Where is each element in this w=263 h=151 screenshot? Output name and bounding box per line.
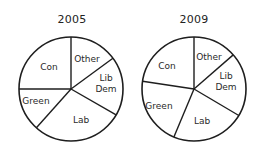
slice-label-other: Other [74,54,100,64]
slice-label-con: Con [158,61,176,71]
pie-2005: OtherLibDemLabGreenCon [19,37,123,141]
slice-label-green: Green [145,101,172,111]
pie-2009: OtherLibDemLabGreenCon [142,37,246,141]
slice-label-con: Con [40,62,58,72]
slice-label-other: Other [196,52,222,62]
pie-charts-figure: 2005 2009 OtherLibDemLabGreenConOtherLib… [0,0,263,151]
slice-label-green: Green [22,96,49,106]
chart-title-2005: 2005 [42,13,102,26]
chart-title-2009: 2009 [164,13,224,26]
slice-label-lab: Lab [73,115,90,125]
slice-label-lab: Lab [194,116,211,126]
